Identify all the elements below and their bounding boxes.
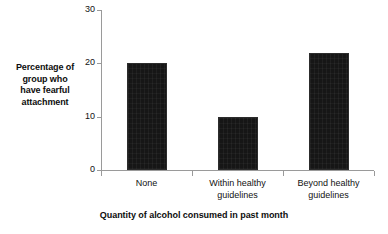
x-tick-label-3: Beyond healthyguidelines — [283, 177, 374, 201]
y-tick-label: 30 — [73, 5, 95, 14]
y-tick-labels: 0102030 — [71, 10, 95, 171]
y-tick-label: 20 — [73, 58, 95, 67]
x-tick-label-line: None — [101, 177, 192, 189]
bar-3[interactable] — [309, 53, 349, 170]
x-axis-line — [101, 170, 374, 171]
x-tick-mark — [283, 171, 284, 176]
x-tick-mark — [101, 171, 102, 176]
x-tick-label-line: Within healthy — [192, 177, 283, 189]
x-tick-label-line: guidelines — [283, 189, 374, 201]
x-tick-label-1: None — [101, 177, 192, 189]
y-axis-line — [101, 10, 102, 171]
plot-area: 0102030 — [101, 10, 374, 170]
x-tick-mark — [374, 171, 375, 176]
y-tick-label: 10 — [73, 112, 95, 121]
x-tick-labels: NoneWithin healthyguidelinesBeyond healt… — [101, 177, 374, 207]
bar-1[interactable] — [127, 63, 167, 170]
bar-chart: Percentage of group who have fearful att… — [0, 0, 388, 234]
y-tick-label: 0 — [73, 165, 95, 174]
x-tick-label-2: Within healthyguidelines — [192, 177, 283, 201]
y-tick-mark — [97, 10, 101, 11]
y-tick-mark — [97, 63, 101, 64]
x-tick-mark — [192, 171, 193, 176]
x-axis-title: Quantity of alcohol consumed in past mon… — [0, 210, 388, 220]
x-tick-label-line: guidelines — [192, 189, 283, 201]
y-tick-mark — [97, 117, 101, 118]
x-tick-label-line: Beyond healthy — [283, 177, 374, 189]
bar-2[interactable] — [218, 117, 258, 170]
